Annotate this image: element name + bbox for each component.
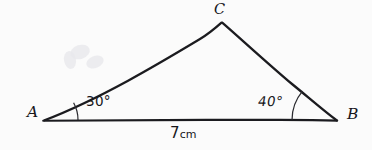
vertex-label-b: B bbox=[347, 107, 359, 123]
angle-label-a: 30° bbox=[86, 95, 111, 109]
base-ab-line bbox=[43, 120, 337, 121]
base-length-value: 7 bbox=[170, 124, 180, 142]
angle-arc-b bbox=[292, 91, 303, 120]
angle-label-b: 40° bbox=[257, 95, 284, 109]
base-length-label: 7cm bbox=[170, 126, 197, 141]
triangle-figure: A B C 30° 40° 7cm bbox=[0, 0, 372, 150]
paper-smudges bbox=[63, 42, 106, 71]
vertex-label-a: A bbox=[27, 105, 38, 121]
vertex-label-c: C bbox=[214, 2, 225, 17]
base-length-unit: cm bbox=[180, 128, 197, 141]
side-ac-line bbox=[45, 23, 222, 121]
